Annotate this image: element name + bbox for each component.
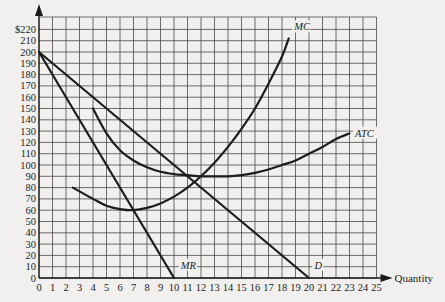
y-axis-arrow-icon bbox=[35, 4, 43, 16]
x-tick-label: 23 bbox=[344, 282, 355, 293]
x-tick-label: 18 bbox=[277, 282, 288, 293]
curve-mc bbox=[73, 38, 289, 210]
x-tick-label: 15 bbox=[236, 282, 247, 293]
x-tick-label: 5 bbox=[104, 282, 109, 293]
x-tick-label: 1 bbox=[50, 282, 55, 293]
y-tick-label: 90 bbox=[26, 171, 37, 182]
x-tick-label: 3 bbox=[77, 282, 82, 293]
x-tick-label: 21 bbox=[317, 282, 328, 293]
y-tick-label: 30 bbox=[26, 239, 37, 250]
x-tick-label: 7 bbox=[131, 282, 136, 293]
x-tick-label: 13 bbox=[209, 282, 220, 293]
y-tick-label: 110 bbox=[21, 148, 36, 159]
x-tick-label: 14 bbox=[223, 282, 234, 293]
x-tick-label: 16 bbox=[250, 282, 261, 293]
y-tick-label: 100 bbox=[20, 160, 36, 171]
x-tick-label: 11 bbox=[182, 282, 192, 293]
x-tick-label: 0 bbox=[36, 282, 41, 293]
x-tick-label: 2 bbox=[63, 282, 68, 293]
y-tick-label: 50 bbox=[26, 216, 37, 227]
y-tick-label: 130 bbox=[20, 126, 36, 137]
curve-label-d: D bbox=[313, 260, 322, 271]
x-tick-label: 4 bbox=[90, 282, 96, 293]
x-tick-label: 6 bbox=[117, 282, 122, 293]
x-tick-label: 24 bbox=[358, 282, 369, 293]
y-tick-label: 150 bbox=[20, 103, 36, 114]
x-tick-label: 10 bbox=[169, 282, 180, 293]
cost-revenue-chart: Quantity01234567891011121314151617181920… bbox=[0, 0, 445, 302]
y-tick-label: 10 bbox=[26, 261, 37, 272]
y-tick-label: 40 bbox=[26, 227, 37, 238]
y-tick-label: 160 bbox=[20, 92, 36, 103]
y-tick-label: 200 bbox=[20, 47, 36, 58]
y-tick-label: 140 bbox=[20, 114, 36, 125]
x-tick-label: 17 bbox=[263, 282, 274, 293]
y-tick-label: 0 bbox=[31, 273, 36, 284]
grid bbox=[39, 17, 377, 278]
y-tick-label: 70 bbox=[26, 193, 37, 204]
x-tick-label: 25 bbox=[371, 282, 382, 293]
y-tick-label: 170 bbox=[20, 80, 36, 91]
x-tick-label: 22 bbox=[331, 282, 342, 293]
x-tick-label: 9 bbox=[158, 282, 163, 293]
y-tick-label: 60 bbox=[26, 205, 37, 216]
curve-label-mr: MR bbox=[180, 260, 197, 271]
y-tick-label: 20 bbox=[26, 250, 37, 261]
chart-container: Quantity01234567891011121314151617181920… bbox=[0, 0, 445, 302]
curve-label-atc: ATC bbox=[354, 128, 375, 139]
y-tick-label: 180 bbox=[20, 69, 36, 80]
curve-label-mc: MC bbox=[293, 21, 311, 32]
x-tick-label: 20 bbox=[304, 282, 315, 293]
x-axis-arrow-icon bbox=[381, 274, 393, 282]
y-tick-label: $220 bbox=[15, 24, 36, 35]
y-tick-label: 210 bbox=[20, 35, 36, 46]
x-tick-label: 19 bbox=[290, 282, 301, 293]
x-tick-label: 8 bbox=[144, 282, 149, 293]
y-tick-label: 120 bbox=[20, 137, 36, 148]
y-tick-label: 80 bbox=[26, 182, 37, 193]
x-tick-label: 12 bbox=[196, 282, 207, 293]
y-tick-label: 190 bbox=[20, 58, 36, 69]
x-axis-label: Quantity bbox=[395, 272, 434, 284]
